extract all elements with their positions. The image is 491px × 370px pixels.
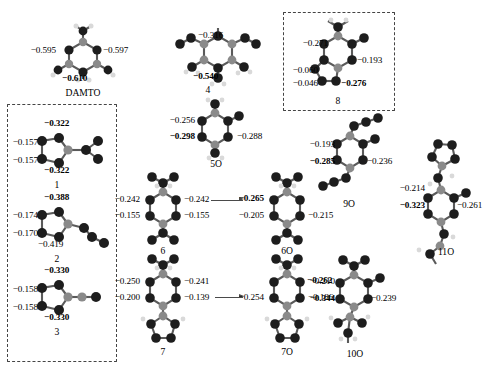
charge-6-left-lower: −0.155 — [100, 211, 140, 220]
charge-2-left-lower: −0.170 — [0, 229, 38, 238]
label-7o: 7O — [273, 347, 301, 357]
charge-1-top: −0.322 — [44, 119, 69, 128]
label-6o: 6O — [273, 246, 301, 256]
charge-5o-left-upper: −0.256 — [155, 116, 195, 125]
molecule-7 — [133, 256, 195, 352]
charge-5o-right: −0.288 — [237, 132, 262, 141]
charge-1-left-upper: −0.157 — [0, 138, 38, 147]
charge-8-right: −0.193 — [357, 56, 382, 65]
charge-2-bottom: −0.419 — [38, 240, 63, 249]
charge-11o-right: −0.261 — [457, 201, 482, 210]
charge-6-right-upper: −0.242 — [184, 195, 209, 204]
charge-7o-left: −0.254 — [224, 293, 264, 302]
molecule-11o — [408, 132, 488, 262]
charge-4-top: −0.316 — [198, 31, 223, 40]
charge-9o-right: −0.236 — [367, 157, 392, 166]
charge-1-bottom: −0.322 — [44, 166, 69, 175]
label-10o: 10O — [339, 349, 371, 359]
charge-3-top: −0.330 — [44, 266, 69, 275]
label-4: 4 — [196, 85, 220, 95]
charge-5o-left-lower: −0.298 — [153, 132, 195, 141]
molecule-10o — [318, 255, 396, 355]
charge-3-left-lower: −0.158 — [0, 303, 38, 312]
figure-canvas: −0.595 −0.597 −0.610 DAMTO −0.322 −0.157… — [0, 0, 491, 370]
charge-7-right-lower: −0.139 — [184, 293, 209, 302]
charge-damto-bottom: −0.610 — [62, 74, 87, 83]
label-9o: 9O — [335, 199, 363, 209]
charge-2-top: −0.388 — [44, 193, 69, 202]
charge-4-bottom: −0.540 — [193, 72, 218, 81]
charge-6o-left-upper: −0.265 — [222, 194, 264, 203]
charge-6-right-lower: −0.155 — [184, 211, 209, 220]
charge-2-left-upper: −0.174 — [0, 211, 38, 220]
label-6: 6 — [150, 246, 176, 256]
charge-3-bottom: −0.330 — [44, 313, 69, 322]
label-7: 7 — [150, 347, 176, 357]
molecule-5o — [185, 99, 247, 161]
label-damto: DAMTO — [48, 88, 118, 98]
charge-3-left-upper: −0.158 — [0, 285, 38, 294]
charge-6o-left-lower: −0.205 — [224, 211, 264, 220]
label-8: 8 — [325, 96, 351, 106]
charge-10o-left-lower: −0.344 — [289, 294, 335, 303]
label-3: 3 — [42, 327, 72, 337]
charge-8-left-lower: −0.046 — [278, 79, 318, 88]
charge-damto-left: −0.595 — [16, 46, 56, 55]
molecule-7o — [257, 256, 319, 352]
charge-8-left-upper: −0.271 — [288, 39, 328, 48]
charge-8-left-mid: −0.060 — [278, 66, 318, 75]
charge-7-left-upper: −0.250 — [100, 277, 140, 286]
charge-7-left-lower: −0.200 — [100, 293, 140, 302]
charge-7-right-upper: −0.241 — [184, 277, 209, 286]
charge-11o-left-lower: −0.323 — [381, 201, 425, 210]
charge-damto-right: −0.597 — [103, 46, 128, 55]
label-1: 1 — [42, 180, 72, 190]
charge-1-left-lower: −0.157 — [0, 156, 38, 165]
label-11o: 11O — [430, 247, 462, 257]
charge-9o-left-lower: −0.285 — [291, 157, 335, 166]
charge-6o-right-lower: −0.215 — [308, 211, 333, 220]
label-2: 2 — [42, 254, 72, 264]
label-5o: 5O — [202, 159, 230, 169]
charge-11o-left-upper: −0.214 — [383, 184, 425, 193]
charge-10o-right: −0.239 — [371, 294, 396, 303]
charge-9o-left-upper: −0.193 — [293, 140, 335, 149]
charge-10o-left-upper: −0.210 — [293, 277, 335, 286]
charge-6-left-upper: −0.242 — [100, 195, 140, 204]
charge-8-bottom: −0.276 — [341, 79, 366, 88]
